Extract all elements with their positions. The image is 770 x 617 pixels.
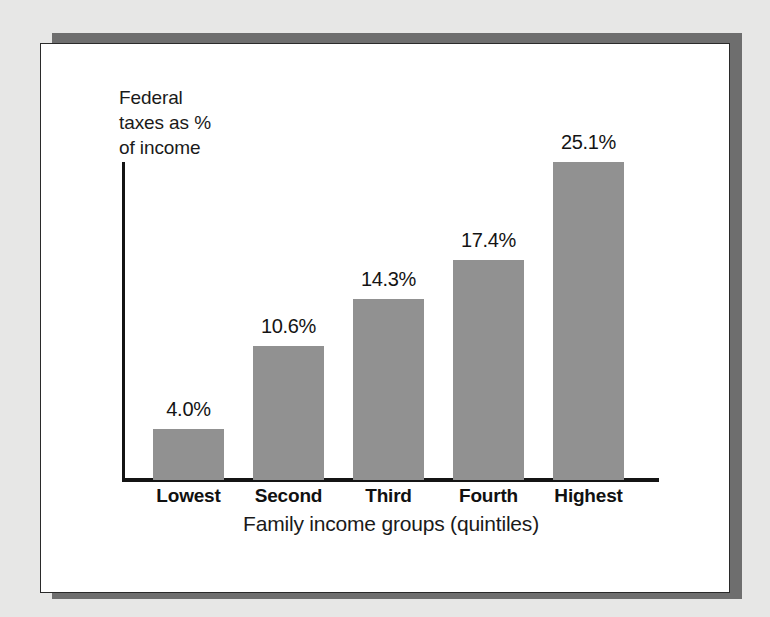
category-label: Highest [534, 485, 644, 507]
bar [353, 299, 424, 480]
bar-chart-plot: Federal taxes as % of income 4.0%Lowest1… [41, 44, 731, 594]
bar-value-label: 14.3% [334, 268, 444, 291]
bar-value-label: 17.4% [434, 229, 544, 252]
x-axis-title: Family income groups (quintiles) [101, 512, 681, 536]
figure-panel: Federal taxes as % of income 4.0%Lowest1… [40, 43, 730, 593]
bar [253, 346, 324, 480]
bar-value-label: 10.6% [234, 315, 344, 338]
category-label: Third [334, 485, 444, 507]
bar [553, 162, 624, 480]
category-label: Fourth [434, 485, 544, 507]
category-label: Lowest [134, 485, 244, 507]
bar [453, 260, 524, 480]
bar-value-label: 25.1% [534, 131, 644, 154]
bar-value-label: 4.0% [134, 398, 244, 421]
bar [153, 429, 224, 480]
category-label: Second [234, 485, 344, 507]
